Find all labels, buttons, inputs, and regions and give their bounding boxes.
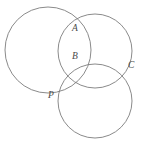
point-label-c: C: [128, 61, 134, 71]
lower-right-circle: [58, 64, 132, 138]
point-label-p: P: [48, 91, 54, 101]
point-label-a: A: [72, 24, 78, 34]
left-circle: [5, 7, 91, 93]
upper-right-circle: [58, 14, 132, 88]
geometry-figure: A B C P: [0, 0, 146, 149]
point-label-b: B: [72, 52, 78, 62]
